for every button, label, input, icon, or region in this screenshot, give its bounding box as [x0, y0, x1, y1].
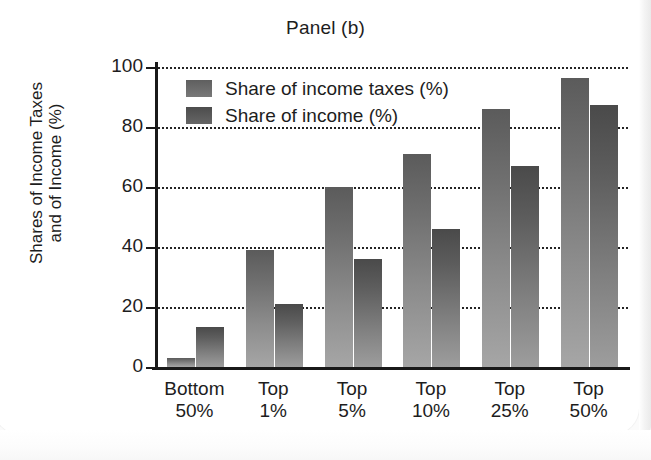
- y-axis-tick-label: 0: [93, 355, 143, 377]
- y-axis-tick-label: 60: [93, 175, 143, 197]
- bar: [325, 187, 353, 367]
- legend-color-swatch: [186, 80, 212, 97]
- x-axis-tick-label-line: 50%: [534, 400, 644, 422]
- y-axis-title: Shares of Income Taxes and of Income (%): [23, 33, 69, 313]
- legend-item: Share of income taxes (%): [186, 75, 449, 102]
- bar: [511, 166, 539, 367]
- y-axis-title-line-1: Shares of Income Taxes: [27, 82, 46, 264]
- bar: [432, 229, 460, 367]
- y-axis-tick-label: 80: [93, 115, 143, 137]
- bar-group: [482, 67, 539, 367]
- y-axis-tick-mark: [146, 127, 157, 129]
- x-axis-tick-label-line: Top: [534, 378, 644, 400]
- y-axis-tick-mark: [146, 247, 157, 249]
- bar: [354, 259, 382, 367]
- bar: [590, 105, 618, 368]
- y-axis-tick-label: 100: [93, 55, 143, 77]
- bar: [561, 78, 589, 368]
- y-axis-tick-mark: [146, 187, 157, 189]
- legend-label: Share of income taxes (%): [225, 78, 449, 100]
- y-axis-tick-mark: [146, 67, 157, 69]
- legend-label: Share of income (%): [225, 105, 398, 127]
- bar: [275, 304, 303, 367]
- chart-title: Panel (b): [0, 17, 651, 39]
- bar: [167, 358, 195, 367]
- legend-item: Share of income (%): [186, 102, 449, 129]
- bar: [403, 154, 431, 367]
- bar: [482, 109, 510, 367]
- x-axis-tick-label: Top50%: [534, 378, 644, 422]
- y-axis-tick-label: 40: [93, 235, 143, 257]
- chart-legend: Share of income taxes (%)Share of income…: [186, 75, 449, 129]
- y-axis-title-line-2: and of Income (%): [46, 104, 65, 243]
- legend-color-swatch: [186, 107, 212, 124]
- bar-chart: Panel (b) Shares of Income Taxes and of …: [0, 0, 651, 460]
- bar: [246, 250, 274, 367]
- bar-group: [561, 67, 618, 367]
- y-axis-tick-mark: [146, 307, 157, 309]
- x-axis-line: [152, 367, 630, 370]
- bar: [196, 327, 224, 368]
- y-axis-tick-mark: [146, 367, 157, 369]
- y-axis-tick-label: 20: [93, 295, 143, 317]
